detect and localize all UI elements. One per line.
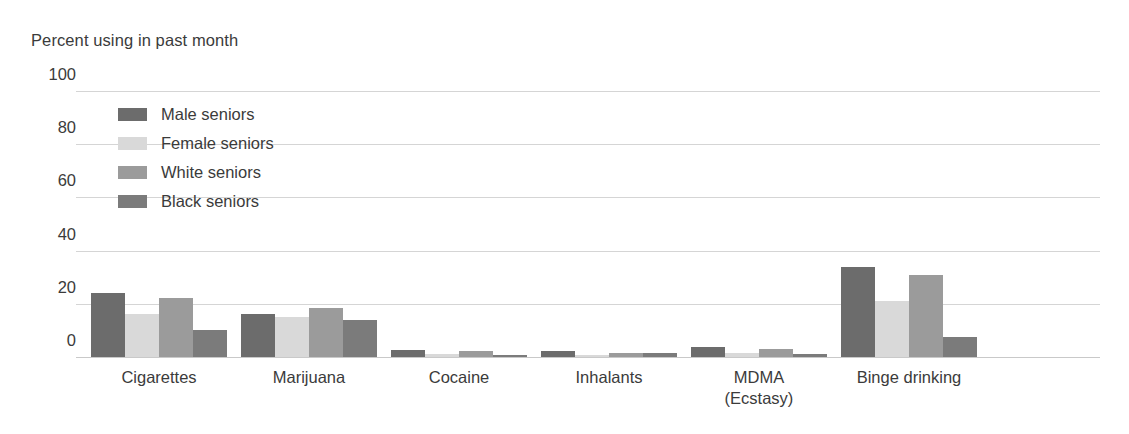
bar-group	[691, 91, 827, 357]
bar	[193, 330, 227, 357]
legend-swatch-icon	[118, 195, 147, 208]
legend-item-label: White seniors	[161, 163, 261, 182]
bar	[343, 320, 377, 357]
bar	[793, 354, 827, 357]
bar-group	[391, 91, 527, 357]
bar	[609, 353, 643, 357]
bar	[541, 351, 575, 357]
bar	[841, 267, 875, 357]
legend-item[interactable]: Black seniors	[118, 187, 274, 216]
bar	[241, 314, 275, 357]
bar	[909, 275, 943, 357]
bar	[125, 314, 159, 357]
category-label-line: (Ecstasy)	[651, 388, 867, 409]
legend-item[interactable]: White seniors	[118, 158, 274, 187]
axis-baseline	[76, 357, 1100, 358]
bar	[725, 353, 759, 357]
bar	[159, 298, 193, 357]
bar	[493, 355, 527, 357]
legend-item-label: Female seniors	[161, 134, 274, 153]
bar-group	[841, 91, 977, 357]
y-tick-label: 40	[16, 225, 76, 244]
chart-legend: Male seniorsFemale seniorsWhite seniorsB…	[118, 100, 274, 216]
y-tick-label: 0	[16, 331, 76, 350]
bar	[459, 351, 493, 357]
legend-item-label: Male seniors	[161, 105, 255, 124]
bar	[575, 355, 609, 357]
bar	[309, 308, 343, 357]
category-label: Binge drinking	[801, 367, 1017, 388]
y-tick-label: 20	[16, 278, 76, 297]
legend-item[interactable]: Female seniors	[118, 129, 274, 158]
bar	[391, 350, 425, 357]
y-tick-label: 100	[16, 65, 76, 84]
y-tick-label: 60	[16, 171, 76, 190]
y-tick-label: 80	[16, 118, 76, 137]
bar	[425, 354, 459, 357]
bar-group	[541, 91, 677, 357]
bar	[275, 317, 309, 357]
bar	[943, 337, 977, 357]
bar	[691, 347, 725, 357]
bar	[91, 293, 125, 357]
legend-swatch-icon	[118, 166, 147, 179]
category-label-line: Binge drinking	[801, 367, 1017, 388]
legend-item-label: Black seniors	[161, 192, 259, 211]
bar	[759, 349, 793, 357]
bar	[875, 301, 909, 357]
legend-swatch-icon	[118, 108, 147, 121]
legend-swatch-icon	[118, 137, 147, 150]
bar	[643, 353, 677, 357]
legend-item[interactable]: Male seniors	[118, 100, 274, 129]
bar-chart: Percent using in past month 020406080100…	[0, 0, 1129, 434]
